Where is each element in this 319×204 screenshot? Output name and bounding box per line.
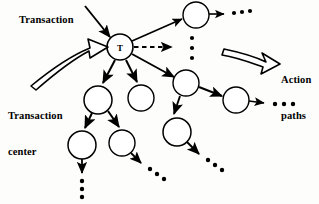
node-center-right[interactable] (128, 85, 154, 111)
label-action-paths-line2: paths (281, 110, 311, 122)
edge-node4-to-node7 (85, 113, 92, 128)
node-mid-right[interactable] (173, 70, 199, 96)
node-far-right[interactable] (223, 87, 249, 113)
edge-node6-to-ellipsis (187, 142, 199, 154)
label-transaction-center: Transaction center (8, 86, 63, 182)
node-lower-right[interactable] (163, 118, 191, 146)
action-paths-callout-arrow (222, 49, 280, 74)
label-action-paths: Action paths (281, 50, 311, 146)
edge-node2-to-node6 (174, 96, 180, 114)
ellipsis-middle-vertical (190, 36, 194, 60)
figure-canvas: T (0, 0, 319, 204)
label-action-paths-line1: Action (281, 74, 311, 86)
ellipsis-bottom-diagonal (148, 167, 166, 181)
label-transaction: Transaction (19, 14, 74, 26)
node-top-right[interactable] (183, 2, 209, 28)
ellipsis-bottom-vertical (80, 179, 84, 199)
node-T-label: T (117, 43, 123, 53)
transaction-center-callout-arrow (31, 39, 108, 90)
node-bottom-mid[interactable] (109, 130, 135, 156)
incoming-transaction-arrow (85, 6, 110, 37)
node-center-left[interactable] (84, 86, 112, 114)
edge-T-to-node2 (132, 54, 174, 77)
edge-node8-to-ellipsis (131, 153, 141, 163)
edge-node4-to-node8 (108, 111, 119, 127)
label-transaction-center-line2: center (8, 146, 63, 158)
edge-T-to-node4 (103, 60, 115, 83)
node-T[interactable]: T (107, 34, 133, 60)
edge-T-to-node5 (126, 60, 137, 82)
ellipsis-top-right (232, 9, 252, 15)
edge-T-to-node1 (132, 19, 182, 41)
label-transaction-center-line1: Transaction (8, 110, 63, 122)
edge-node3-to-ellipsis (249, 101, 264, 103)
ellipsis-bottom-right (206, 158, 224, 172)
edge-node2-to-node3 (199, 87, 222, 96)
node-bottom-left[interactable] (68, 131, 96, 159)
